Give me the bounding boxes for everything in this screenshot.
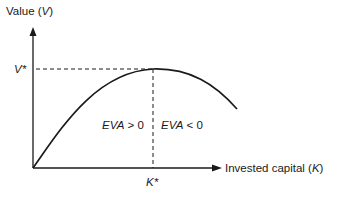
y-axis-arrow-icon — [30, 27, 37, 36]
region-label-eva-negative: EVA < 0 — [161, 119, 203, 131]
k-star-label: K* — [146, 176, 159, 188]
x-axis-label: Invested capital (K) — [225, 162, 324, 174]
region-label-eva-positive: EVA > 0 — [102, 119, 144, 131]
eva-diagram: Value (V) V* EVA > 0 EVA < 0 Invested ca… — [0, 0, 337, 197]
x-axis-arrow-icon — [212, 165, 222, 172]
y-axis-label: Value (V) — [6, 5, 53, 17]
v-star-label: V* — [14, 63, 27, 75]
